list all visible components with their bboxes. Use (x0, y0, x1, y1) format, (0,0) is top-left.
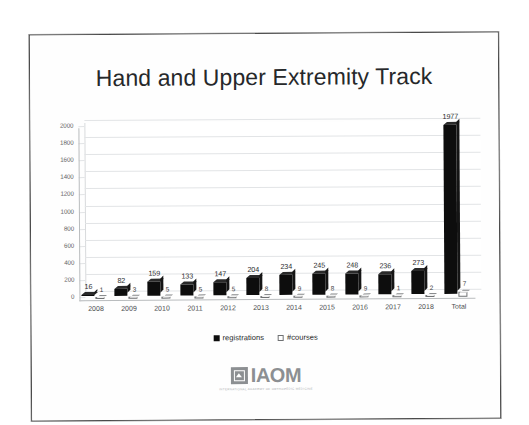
x-axis-tick: 2012 (220, 304, 236, 311)
y-axis-tick: 600 (64, 241, 74, 248)
bar-courses[interactable] (194, 296, 203, 298)
bar-value-label: 1977 (443, 112, 459, 121)
bar-group[interactable]: 823 (111, 123, 145, 301)
bar-registrations[interactable] (443, 125, 457, 294)
bar-value-label: 159 (148, 269, 160, 278)
bar-value-label: 5 (199, 285, 203, 292)
bar-group[interactable]: 2048 (243, 122, 277, 300)
bar-registrations[interactable] (345, 273, 358, 294)
bar-registrations[interactable] (279, 275, 292, 295)
y-axis-tick: 800 (64, 224, 74, 231)
bar-group[interactable]: 19777 (441, 121, 475, 299)
x-axis-tick: Total (452, 303, 467, 310)
bar-value-label: 273 (412, 258, 424, 267)
bars-layer: 1618231595133514752048234924582489236127… (78, 121, 475, 301)
chart-legend: registrations#courses (32, 332, 500, 344)
x-axis-tick: 2013 (253, 304, 269, 311)
bar-courses[interactable] (458, 292, 467, 297)
bar-value-label: 248 (346, 260, 358, 269)
y-axis: 0200400600800100012001400160018002000 (46, 123, 77, 301)
x-axis-tick: 2011 (187, 304, 202, 311)
y-axis-tick: 1800 (60, 139, 73, 146)
bar-courses[interactable] (425, 295, 434, 297)
bar-registrations[interactable] (213, 283, 226, 296)
bar-registrations[interactable] (147, 282, 160, 296)
bar-group[interactable]: 1595 (144, 123, 178, 301)
logo-subtitle: INTERNATIONAL ACADEMY OF ORTHOPEDIC MEDI… (219, 387, 313, 392)
bar-value-label: 147 (214, 270, 226, 279)
x-axis-tick: 2017 (385, 303, 401, 310)
y-axis-tick: 1400 (60, 173, 73, 180)
bar-courses[interactable] (359, 295, 368, 297)
bar-registrations[interactable] (114, 289, 127, 296)
axis-depth-edge (79, 295, 85, 301)
bar-group[interactable]: 1335 (177, 122, 211, 300)
bar-value-label: 2 (430, 283, 434, 290)
plot-area: 1618231595133514752048234924582489236127… (78, 121, 481, 301)
x-axis: 2008200920102011201220132014201520162017… (79, 303, 475, 319)
x-axis-tick: 2010 (154, 305, 170, 312)
x-axis-tick: 2015 (319, 304, 335, 311)
legend-item[interactable]: #courses (278, 333, 318, 342)
bar-value-label: 245 (313, 261, 325, 270)
bar-courses[interactable] (392, 295, 401, 297)
bar-value-label: 16 (84, 282, 92, 291)
bar-value-label: 1 (100, 285, 104, 292)
x-axis-tick: 2016 (352, 303, 368, 310)
bar-registrations[interactable] (378, 274, 391, 294)
bar-value-label: 5 (166, 285, 170, 292)
x-axis-tick: 2014 (286, 304, 302, 311)
bar-courses[interactable] (128, 297, 137, 299)
shield-house-icon (231, 367, 248, 384)
bar-registrations[interactable] (312, 274, 325, 295)
y-axis-tick: 0 (71, 293, 74, 300)
bar-value-label: 7 (463, 280, 467, 287)
x-axis-tick: 2018 (418, 303, 434, 310)
bar-courses[interactable] (161, 297, 170, 299)
bar-registrations[interactable] (246, 278, 259, 296)
bar-group[interactable]: 2361 (375, 121, 409, 299)
legend-label: #courses (287, 333, 318, 342)
x-axis-tick: 2008 (88, 305, 104, 312)
bar-group[interactable]: 2458 (309, 122, 343, 300)
bar-registrations[interactable] (180, 284, 193, 295)
slide-frame: Hand and Upper Extremity Track 020040060… (29, 32, 501, 422)
bar-group[interactable]: 2732 (408, 121, 442, 299)
bar-value-label: 82 (117, 276, 125, 285)
logo-wordmark: IAOM (251, 365, 301, 385)
bar-courses[interactable] (293, 296, 302, 298)
bar-group[interactable]: 2489 (342, 121, 376, 299)
bar-courses[interactable] (260, 296, 269, 298)
y-axis-tick: 2000 (60, 122, 73, 129)
bar-courses[interactable] (326, 296, 335, 298)
y-axis-tick: 1200 (60, 190, 73, 197)
legend-label: registrations (223, 333, 264, 342)
bar-value-label: 3 (133, 285, 137, 292)
bar-value-label: 5 (232, 285, 236, 292)
bar-value-label: 8 (265, 284, 269, 291)
bar-value-label: 1 (397, 284, 401, 291)
bar-registrations[interactable] (411, 271, 424, 294)
bar-value-label: 236 (379, 261, 391, 270)
slide-content: Hand and Upper Extremity Track 020040060… (30, 33, 500, 421)
bar-group[interactable]: 1475 (210, 122, 244, 300)
legend-swatch (278, 334, 284, 340)
bar-courses[interactable] (227, 296, 236, 298)
y-axis-tick: 200 (64, 276, 74, 283)
legend-swatch (214, 335, 220, 341)
bar-value-label: 9 (298, 284, 302, 291)
bar-value-label: 204 (247, 265, 259, 274)
bar-group[interactable]: 2349 (276, 122, 310, 300)
x-axis-tick: 2009 (121, 305, 137, 312)
bar-value-label: 133 (181, 271, 193, 280)
bar-group[interactable]: 161 (78, 123, 112, 301)
y-axis-tick: 400 (64, 258, 74, 265)
bar-value-label: 234 (280, 262, 292, 271)
legend-item[interactable]: registrations (214, 333, 264, 342)
bar-courses[interactable] (95, 297, 104, 299)
y-axis-tick: 1600 (60, 156, 73, 163)
iaom-logo: IAOM INTERNATIONAL ACADEMY OF ORTHOPEDIC… (32, 364, 500, 393)
bar-chart: 0200400600800100012001400160018002000 16… (46, 121, 483, 324)
page-title: Hand and Upper Extremity Track (30, 63, 498, 93)
bar-value-label: 8 (331, 284, 335, 291)
